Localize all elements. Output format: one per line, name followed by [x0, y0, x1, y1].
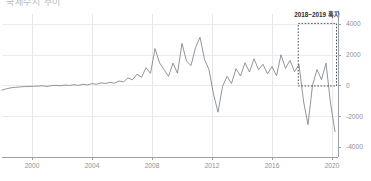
x-tick-label-2000: 2000 — [25, 162, 40, 169]
y-tick-label-0: 0 — [346, 82, 350, 89]
axis-layer — [2, 14, 341, 160]
x-tick-label-2012: 2012 — [205, 162, 220, 169]
chart-container: 국제수지 추이 2018~2019 흑자 400020000-2000-4000… — [0, 0, 371, 181]
horizontal-gridlines — [2, 24, 338, 117]
x-tick-label-2016: 2016 — [265, 162, 280, 169]
annotation-layer: 2018~2019 흑자 — [294, 10, 339, 86]
line-chart: 2018~2019 흑자 400020000-2000-400020002004… — [0, 0, 371, 181]
y-tick-label--4000: -4000 — [346, 143, 363, 150]
series-layer — [2, 37, 335, 131]
page-title: 국제수지 추이 — [6, 0, 61, 8]
series-line-balance — [2, 37, 335, 131]
tick-label-layer: 400020000-2000-4000200020042008201220162… — [25, 20, 364, 169]
x-tick-label-2020: 2020 — [325, 162, 340, 169]
y-tick-label--2000: -2000 — [346, 113, 363, 120]
x-tick-label-2004: 2004 — [85, 162, 100, 169]
annotation-label: 2018~2019 흑자 — [294, 10, 339, 19]
y-tick-label-4000: 4000 — [346, 20, 361, 27]
x-tick-label-2008: 2008 — [145, 162, 160, 169]
y-tick-label-2000: 2000 — [346, 51, 361, 58]
